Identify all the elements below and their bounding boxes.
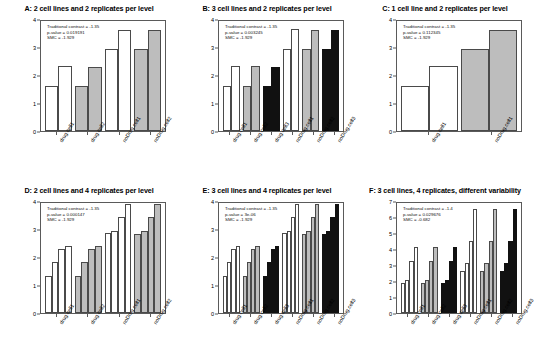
bar [251, 66, 259, 131]
y-tick-label: 3 [33, 45, 36, 51]
bar [118, 30, 131, 131]
panel-a: A: 2 cell lines and 2 replicates per lev… [0, 0, 178, 182]
annotation-value: -1.929 [418, 35, 430, 40]
x-tick-mark [313, 314, 314, 317]
y-tick-label: 0 [211, 311, 214, 317]
plot-area: Traditional contrast = -1.35p-value = 3e… [218, 202, 344, 314]
x-tick-mark [407, 314, 408, 317]
x-tick-mark [229, 132, 230, 135]
annotation-value: -1.929 [62, 217, 74, 222]
figure-panel-grid: A: 2 cell lines and 2 replicates per lev… [0, 0, 534, 364]
bar [154, 204, 161, 313]
annotation-label: SMC = [47, 217, 62, 222]
y-tick-label: 0 [389, 311, 392, 317]
annotation-value: -1.929 [62, 35, 74, 40]
y-axis: 01234Measured phenotypic effect [204, 20, 218, 132]
y-axis: 01234567Measured phenotypic effect [382, 202, 396, 314]
x-tick-mark [491, 132, 492, 135]
annotation-label: Traditional contrast = [47, 206, 89, 211]
bar [118, 217, 125, 313]
annotation-value: -1.35 [267, 24, 277, 29]
annotation-label: p-value = [225, 30, 244, 35]
annotation-label: SMC = [225, 217, 240, 222]
annotation-smc: SMC = -1.929 [225, 217, 277, 223]
bar [75, 276, 82, 313]
y-tick-label: 0 [389, 129, 392, 135]
annotation-label: Traditional contrast = [403, 206, 445, 211]
stats-annotation: Traditional contrast = -1.35p-value = 0.… [47, 206, 99, 223]
bar [45, 276, 52, 313]
annotation-smc: SMC = -1.929 [403, 35, 455, 41]
x-tick-mark [491, 314, 492, 317]
bar [271, 67, 279, 131]
annotation-label: p-value = [403, 212, 422, 217]
y-tick-label: 6 [389, 215, 392, 221]
y-axis: 01234Measured phenotypic effect [382, 20, 396, 132]
annotation-value: -1.35 [89, 24, 99, 29]
y-axis: 01234Measured phenotypic effect [26, 20, 40, 132]
x-axis: drug.cell1drug.cell2drug.cell3noDrug.cel… [218, 314, 344, 362]
y-tick-label: 3 [211, 227, 214, 233]
bar [88, 249, 95, 313]
x-tick-mark [428, 314, 429, 317]
x-tick-mark [250, 314, 251, 317]
bar [148, 30, 161, 131]
stats-annotation: Traditional contrast = -1.4p-value = 0.0… [403, 206, 453, 223]
bar [311, 30, 319, 131]
annotation-label: Traditional contrast = [225, 24, 267, 29]
bar [105, 233, 112, 313]
panel-b: B: 3 cell lines and 2 replicates per lev… [178, 0, 356, 182]
x-tick-mark [119, 132, 120, 135]
x-tick-mark [150, 314, 151, 317]
annotation-label: SMC = [403, 35, 418, 40]
y-tick-label: 1 [389, 295, 392, 301]
x-tick-mark [271, 314, 272, 317]
x-tick-mark [56, 314, 57, 317]
annotation-value: 0.029676 [422, 212, 440, 217]
x-tick-mark [470, 314, 471, 317]
x-axis: drug.cell1drug.cell2drug.cell3noDrug.cel… [396, 314, 522, 362]
y-tick-label: 2 [33, 73, 36, 79]
x-tick-mark [313, 132, 314, 135]
bar [58, 249, 65, 313]
x-tick-mark [87, 132, 88, 135]
y-tick-label: 4 [33, 17, 36, 23]
bar [414, 247, 418, 313]
y-tick-label: 4 [389, 17, 392, 23]
annotation-label: p-value = [47, 30, 66, 35]
annotation-label: Traditional contrast = [403, 24, 445, 29]
annotation-label: SMC = [403, 217, 418, 222]
annotation-label: p-value = [225, 212, 244, 217]
bar [315, 204, 319, 313]
panel-title: B: 3 cell lines and 2 replicates per lev… [178, 4, 356, 13]
x-tick-mark [271, 132, 272, 135]
bar [453, 247, 457, 313]
annotation-value: 3e-06 [244, 212, 255, 217]
bar [401, 86, 429, 131]
x-tick-mark [229, 314, 230, 317]
annotation-value: -0.682 [418, 217, 430, 222]
y-tick-label: 1 [211, 283, 214, 289]
x-tick-mark [334, 314, 335, 317]
plot-area: Traditional contrast = -1.35p-value = 0.… [40, 202, 166, 314]
panel-title: C: 1 cell line and 2 replicates per leve… [356, 4, 534, 13]
annotation-value: 0.003245 [244, 30, 262, 35]
annotation-value: -1.35 [89, 206, 99, 211]
y-tick-label: 2 [33, 255, 36, 261]
y-tick-label: 0 [211, 129, 214, 135]
y-tick-label: 5 [389, 231, 392, 237]
annotation-label: p-value = [403, 30, 422, 35]
y-tick-label: 7 [389, 199, 392, 205]
x-tick-mark [292, 132, 293, 135]
panel-title: E: 3 cell lines and 4 replicates per lev… [178, 186, 356, 195]
annotation-smc: SMC = -1.929 [47, 217, 99, 223]
x-axis: drug.cell1drug.cell2noDrug.cell1noDrug.c… [40, 132, 166, 180]
bar [52, 262, 59, 313]
annotation-value: 0.000147 [66, 212, 84, 217]
panel-title: A: 2 cell lines and 2 replicates per lev… [0, 4, 178, 13]
x-tick-mark [512, 314, 513, 317]
annotation-value: -1.35 [445, 24, 455, 29]
annotation-value: -1.35 [267, 206, 277, 211]
y-tick-label: 2 [211, 255, 214, 261]
panel-title: F: 3 cell lines, 4 replicates, different… [356, 186, 534, 195]
